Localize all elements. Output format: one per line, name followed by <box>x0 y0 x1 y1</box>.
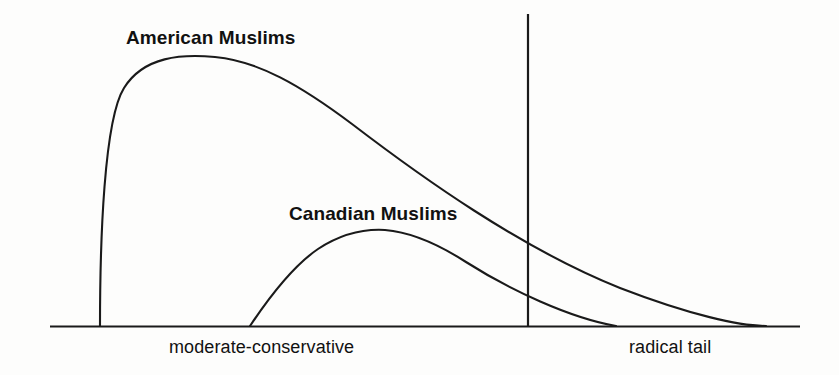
chart-figure: American Muslims Canadian Muslims modera… <box>0 0 839 375</box>
series-label-canadian-muslims: Canadian Muslims <box>289 203 457 225</box>
chart-plot-area <box>0 0 839 375</box>
axis-label-radical-tail: radical tail <box>629 337 711 358</box>
curve-canadian-muslims <box>250 230 616 326</box>
curve-american-muslims <box>100 56 766 326</box>
axis-label-moderate-conservative: moderate-conservative <box>169 337 354 358</box>
series-label-american-muslims: American Muslims <box>126 27 296 49</box>
